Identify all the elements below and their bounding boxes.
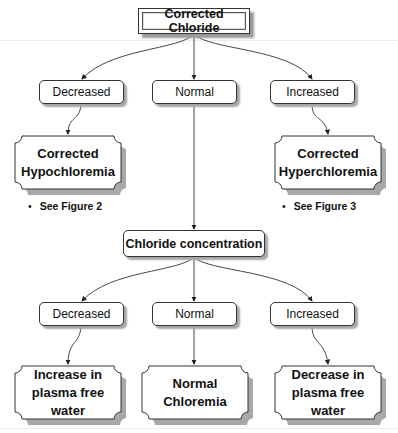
node-label: Decreased: [52, 85, 110, 99]
node-increased-2: Increased: [270, 302, 355, 326]
outcome-normal-chloremia: Normal Chloremia: [141, 365, 253, 427]
outcome-corrected-hyperchloremia: Corrected Hyperchloremia: [274, 135, 386, 197]
node-label: Chloride concentration: [126, 237, 263, 251]
bullet-icon: •: [282, 200, 286, 212]
node-increased-1: Increased: [270, 80, 355, 104]
node-normal-1: Normal: [152, 80, 237, 104]
node-decreased-2: Decreased: [39, 302, 124, 326]
note-see-figure-2: •See Figure 2: [28, 200, 102, 212]
root-node-corrected-chloride: Corrected Chloride: [138, 8, 250, 34]
outcome-increase-plasma-free-water: Increase in plasma free water: [14, 365, 126, 427]
note-text: See Figure 2: [40, 200, 102, 212]
outcome-decrease-plasma-free-water: Decrease in plasma free water: [274, 365, 386, 427]
node-decreased-1: Decreased: [39, 80, 124, 104]
bullet-icon: •: [28, 200, 32, 212]
root-node-label: Corrected Chloride: [139, 7, 249, 35]
node-label: Normal: [175, 85, 214, 99]
node-normal-2: Normal: [152, 302, 237, 326]
node-label: Increased: [286, 85, 339, 99]
node-chloride-concentration: Chloride concentration: [123, 230, 265, 257]
outcome-label: Normal Chloremia: [141, 365, 249, 420]
node-label: Increased: [286, 307, 339, 321]
outcome-label: Corrected Hyperchloremia: [274, 135, 382, 190]
outcome-label: Decrease in plasma free water: [274, 365, 382, 420]
note-text: See Figure 3: [294, 200, 356, 212]
outcome-label: Corrected Hypochloremia: [14, 135, 122, 190]
outcome-label: Increase in plasma free water: [14, 365, 122, 420]
node-label: Decreased: [52, 307, 110, 321]
outcome-corrected-hypochloremia: Corrected Hypochloremia: [14, 135, 126, 197]
node-label: Normal: [175, 307, 214, 321]
note-see-figure-3: •See Figure 3: [282, 200, 356, 212]
